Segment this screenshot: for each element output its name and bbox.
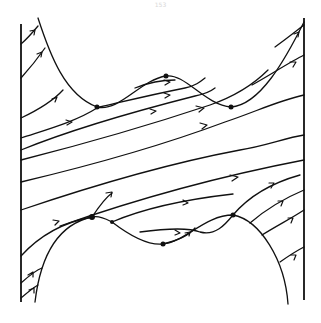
flow-line	[21, 90, 63, 118]
arrow-icon	[53, 220, 59, 225]
phase-portrait-diagram	[0, 0, 321, 323]
arrow-icon	[175, 230, 180, 235]
fixed-point	[229, 105, 234, 110]
fixed-point	[231, 213, 236, 218]
arrow-icon	[164, 93, 170, 98]
top-separatrix	[38, 18, 304, 108]
flow-line	[92, 193, 112, 217]
flow-line	[252, 55, 304, 85]
fixed-point	[164, 74, 169, 79]
fixed-point	[110, 220, 114, 224]
flow-line	[233, 175, 300, 215]
flow-line	[21, 135, 304, 210]
fixed-point	[95, 105, 100, 110]
flow-line	[275, 25, 304, 47]
arrow-icon	[150, 109, 156, 114]
flow-line	[112, 194, 233, 222]
fixed-point	[161, 242, 166, 247]
flow-line	[163, 228, 195, 244]
flow-line	[262, 210, 304, 235]
flow-line	[21, 26, 38, 44]
flow-line	[21, 70, 268, 160]
flow-line	[250, 190, 304, 223]
flow-line	[21, 88, 215, 150]
arrow-icon	[200, 123, 207, 129]
bottom-separatrix	[35, 215, 288, 304]
fixed-point	[89, 214, 95, 220]
arrow-icon	[230, 175, 238, 181]
arrow-icon	[291, 255, 296, 260]
